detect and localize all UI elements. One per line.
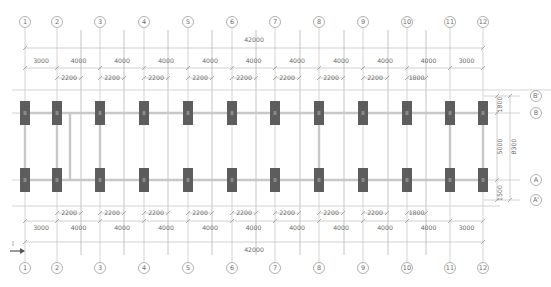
axis-label-11: 11: [446, 264, 454, 272]
dimension-label: 42000: [244, 246, 264, 253]
dimension-label: 4000: [289, 57, 305, 64]
axis-label-7: 7: [273, 18, 277, 26]
right-top-offset-label: 1800: [496, 97, 503, 113]
offset-label: 2200: [61, 209, 77, 216]
column-core: [362, 111, 365, 115]
dimension-label: 4000: [289, 224, 305, 231]
offset-label: 2200: [323, 74, 339, 81]
dimension-label: 4000: [158, 57, 174, 64]
axis-label-4: 4: [142, 18, 146, 26]
column-core: [231, 111, 234, 115]
offset-label: 2200: [323, 209, 339, 216]
offset-label: 2200: [148, 74, 164, 81]
offset-label: 2200: [279, 209, 295, 216]
axis-label-6: 6: [230, 18, 234, 26]
axis-label-A': A': [533, 196, 539, 204]
dimension-label: 3000: [33, 57, 49, 64]
offset-label: 2200: [279, 74, 295, 81]
dimension-label: 4000: [158, 224, 174, 231]
axis-label-4: 4: [142, 264, 146, 272]
axis-label-6: 6: [230, 264, 234, 272]
right-overall-label: 8300: [510, 139, 517, 155]
column-core: [274, 111, 277, 115]
axis-label-2: 2: [55, 18, 59, 26]
offset-label: 2200: [104, 209, 120, 216]
offset-label: 2200: [236, 209, 252, 216]
dimension-label: 4000: [333, 57, 349, 64]
dimension-label: 4000: [377, 57, 393, 64]
offset-label: 2200: [192, 74, 208, 81]
axis-label-8: 8: [317, 18, 321, 26]
foundation-plan: 112233445566778899101011111212B'BAA'4200…: [0, 0, 551, 287]
dimension-label: 3000: [459, 57, 475, 64]
axis-label-9: 9: [361, 18, 365, 26]
dimension-label: 4000: [421, 57, 437, 64]
offset-label: 2200: [192, 209, 208, 216]
dimension-label: 4000: [114, 57, 130, 64]
right-bay-label: 5000: [496, 139, 503, 155]
dimension-label: 4000: [246, 57, 262, 64]
dimension-label: 3000: [33, 224, 49, 231]
offset-label: 2200: [367, 209, 383, 216]
section-arrow-head-icon: [20, 248, 25, 254]
column-core: [187, 111, 190, 115]
column-core: [99, 111, 102, 115]
axis-label-10: 10: [403, 18, 411, 26]
axis-label-3: 3: [98, 264, 102, 272]
axis-label-12: 12: [479, 264, 487, 272]
right-bottom-offset-label: 1500: [496, 185, 503, 201]
dimension-label: 4000: [421, 224, 437, 231]
column-core: [318, 178, 321, 182]
axis-label-B': B': [533, 92, 539, 100]
dimension-label: 4000: [202, 57, 218, 64]
axis-label-10: 10: [403, 264, 411, 272]
column-core: [231, 178, 234, 182]
offset-label: 1800: [409, 74, 425, 81]
dimension-label: 4000: [246, 224, 262, 231]
axis-label-11: 11: [446, 18, 454, 26]
dimension-label: 4000: [114, 224, 130, 231]
dimension-label: 42000: [244, 36, 264, 43]
axis-label-9: 9: [361, 264, 365, 272]
axis-label-B: B: [534, 109, 538, 117]
axis-label-A: A: [534, 176, 539, 184]
axis-label-12: 12: [479, 18, 487, 26]
column-core: [449, 111, 452, 115]
axis-label-5: 5: [186, 18, 190, 26]
column-core: [318, 111, 321, 115]
column-core: [449, 178, 452, 182]
axis-label-7: 7: [273, 264, 277, 272]
offset-label: 2200: [367, 74, 383, 81]
dimension-label: 4000: [71, 224, 87, 231]
axis-label-2: 2: [55, 264, 59, 272]
column-core: [56, 178, 59, 182]
column-core: [56, 111, 59, 115]
axis-label-5: 5: [186, 264, 190, 272]
column-core: [274, 178, 277, 182]
offset-label: 2200: [236, 74, 252, 81]
dimension-label: 4000: [202, 224, 218, 231]
offset-label: 2200: [148, 209, 164, 216]
offset-label: 1800: [409, 209, 425, 216]
drawing-canvas: 112233445566778899101011111212B'BAA'4200…: [0, 0, 551, 287]
column-core: [482, 111, 485, 115]
column-core: [406, 111, 409, 115]
column-core: [406, 178, 409, 182]
dimension-label: 3000: [459, 224, 475, 231]
column-core: [99, 178, 102, 182]
dimension-label: 4000: [71, 57, 87, 64]
offset-label: 2200: [61, 74, 77, 81]
dimension-label: 4000: [333, 224, 349, 231]
offset-label: 2200: [104, 74, 120, 81]
column-core: [143, 111, 146, 115]
column-core: [187, 178, 190, 182]
axis-label-1: 1: [23, 264, 27, 272]
axis-label-1: 1: [23, 18, 27, 26]
column-core: [362, 178, 365, 182]
dimension-label: 4000: [377, 224, 393, 231]
column-core: [143, 178, 146, 182]
axis-label-3: 3: [98, 18, 102, 26]
column-core: [24, 178, 27, 182]
column-core: [482, 178, 485, 182]
column-core: [24, 111, 27, 115]
